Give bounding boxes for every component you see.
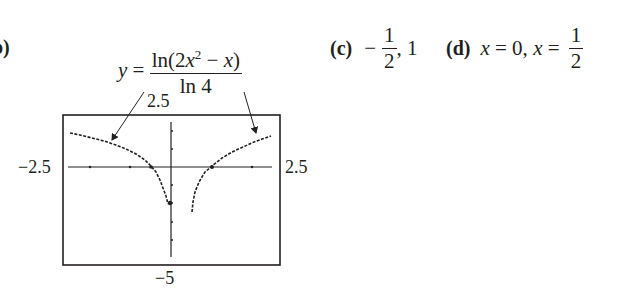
part-d-num: 1 — [569, 25, 584, 49]
part-d-fraction: 1 2 — [569, 25, 584, 72]
part-d-eq2: = — [542, 36, 564, 61]
part-c-den: 2 — [384, 49, 395, 72]
right-arrow — [244, 92, 256, 133]
part-c-label: (c) — [330, 37, 352, 60]
part-d-x1: x — [480, 36, 489, 61]
part-c-rest: , 1 — [397, 36, 418, 61]
x-intercept-left-point — [149, 165, 153, 169]
part-d-answer: (d) x = 0, x = 1 2 — [446, 25, 583, 72]
part-d-eq1: = 0, — [490, 36, 533, 61]
part-c-fraction: 1 2 — [382, 25, 397, 72]
right-branch-curve — [192, 136, 271, 212]
part-d-den: 2 — [571, 49, 582, 72]
part-d-label: (d) — [446, 37, 470, 60]
part-c-answer: (c) − 1 2 , 1 — [330, 25, 418, 72]
part-c-num: 1 — [382, 25, 397, 49]
part-d-x2: x — [533, 36, 542, 61]
x-intercept-right-point — [210, 165, 214, 169]
left-arrow — [112, 92, 144, 140]
left-branch-curve — [70, 133, 168, 204]
curve-end-point — [168, 201, 172, 205]
part-c-sign: − — [364, 36, 376, 61]
